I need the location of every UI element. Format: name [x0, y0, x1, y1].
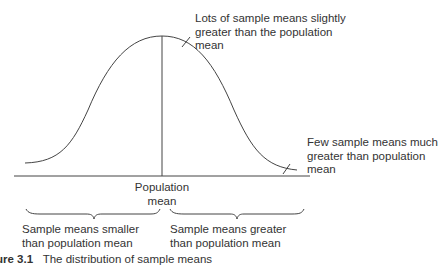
- tail-annotation-line-2: greater than population: [307, 150, 438, 164]
- peak-annotation-line-1: Lots of sample means slightly: [195, 12, 346, 26]
- left-brace-line-1: Sample means smaller: [22, 223, 139, 237]
- left-brace-line-2: than population mean: [22, 237, 139, 251]
- peak-annotation-line-3: mean: [195, 39, 346, 53]
- left-brace-label: Sample means smaller than population mea…: [22, 223, 139, 250]
- left-brace: [26, 209, 160, 219]
- tail-annotation-line-1: Few sample means much: [307, 136, 438, 150]
- right-brace-label: Sample means greater than population mea…: [170, 223, 286, 250]
- right-brace: [170, 209, 304, 219]
- peak-annotation-line-2: greater than the population: [195, 26, 346, 40]
- tail-annotation-line-3: mean: [307, 163, 438, 177]
- population-mean-line-2: mean: [122, 195, 202, 209]
- right-brace-line-1: Sample means greater: [170, 223, 286, 237]
- population-mean-line-1: Population: [122, 181, 202, 195]
- population-mean-label: Population mean: [122, 181, 202, 208]
- peak-pointer-tick: [182, 37, 190, 47]
- tail-annotation: Few sample means much greater than popul…: [307, 136, 438, 177]
- normal-curve: [25, 36, 297, 170]
- peak-annotation: Lots of sample means slightly greater th…: [195, 12, 346, 53]
- figure-number: ure 3.1: [0, 253, 33, 265]
- figure-caption: ure 3.1 The distribution of sample means: [0, 253, 212, 266]
- figure-caption-text: The distribution of sample means: [43, 253, 212, 265]
- right-brace-line-2: than population mean: [170, 237, 286, 251]
